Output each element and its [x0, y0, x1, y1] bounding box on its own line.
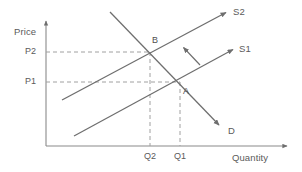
curve-label-s2: S2	[233, 7, 245, 17]
tick-label-p2: P2	[25, 47, 36, 56]
tick-label-q2: Q2	[144, 152, 156, 161]
axis-lines	[46, 21, 287, 146]
curve-lines	[62, 12, 233, 136]
point-label-a: A	[183, 87, 189, 96]
guide-lines	[46, 52, 180, 146]
supply-shift-arrow	[184, 48, 201, 66]
chart-vector-layer	[0, 0, 302, 172]
point-label-b: B	[152, 36, 158, 45]
curve-label-d: D	[228, 126, 235, 136]
tick-label-q1: Q1	[174, 152, 186, 161]
curve-label-s1: S1	[239, 44, 251, 54]
supply-demand-chart: Price Quantity P2 P1 Q2 Q1 S2 S1 D B A	[0, 0, 302, 172]
tick-label-p1: P1	[25, 77, 36, 86]
supply-curve-s1	[74, 50, 233, 137]
y-axis-label: Price	[14, 27, 36, 37]
x-axis-label: Quantity	[232, 153, 268, 163]
supply-curve-s2	[62, 13, 226, 101]
